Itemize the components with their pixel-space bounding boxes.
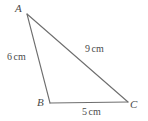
side-ab-unit: cm bbox=[13, 51, 26, 62]
side-length-label-ac: 9cm bbox=[85, 44, 104, 54]
triangle-side-ab bbox=[27, 14, 50, 103]
side-length-label-bc: 5cm bbox=[82, 107, 101, 117]
side-length-label-ab: 6cm bbox=[7, 52, 26, 62]
side-ac-value: 9 bbox=[85, 43, 90, 54]
side-ac-unit: cm bbox=[91, 43, 104, 54]
side-ab-value: 6 bbox=[7, 51, 12, 62]
vertex-label-a: A bbox=[15, 3, 22, 14]
side-bc-unit: cm bbox=[88, 106, 101, 117]
triangle-diagram: A B C 6cm 9cm 5cm bbox=[0, 0, 148, 121]
triangle-side-bc bbox=[50, 102, 128, 103]
vertex-label-b: B bbox=[37, 97, 44, 108]
side-bc-value: 5 bbox=[82, 106, 87, 117]
triangle-side-ac bbox=[27, 14, 128, 102]
vertex-label-c: C bbox=[130, 99, 137, 110]
